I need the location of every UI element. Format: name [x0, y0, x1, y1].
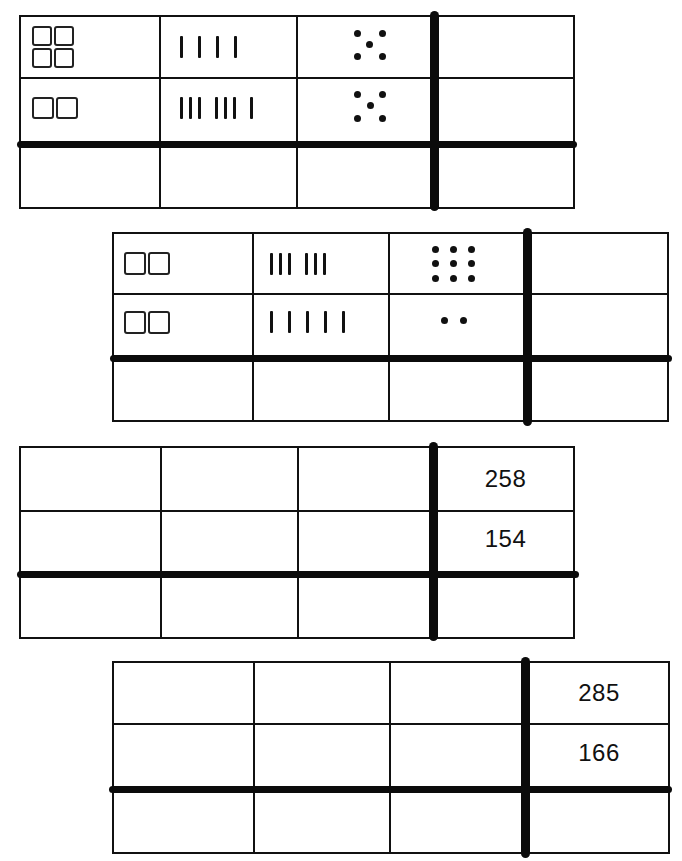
grid-line: [112, 852, 670, 854]
grid-line: [573, 446, 575, 639]
sum-line: [109, 786, 672, 793]
result-tens-cell[interactable]: [255, 793, 389, 852]
result-answer-cell[interactable]: [530, 793, 668, 852]
tens-cell[interactable]: [255, 725, 389, 786]
hundreds-cell: [114, 234, 252, 293]
result-tens-cell[interactable]: [162, 578, 297, 637]
unit-dot-icon: [432, 246, 476, 282]
ones-cell: [298, 79, 430, 141]
result-ones-cell[interactable]: [298, 148, 430, 207]
unit-dot-icon: [441, 317, 467, 325]
hundreds-cell[interactable]: [21, 448, 160, 510]
equals-divider: [523, 228, 532, 426]
tens-cell: [161, 79, 296, 141]
tally-mark-icon: [180, 97, 259, 119]
equals-divider: [430, 11, 439, 211]
ones-cell[interactable]: [299, 448, 429, 510]
result-answer-cell[interactable]: [532, 362, 667, 420]
addend-value: 166: [530, 739, 668, 767]
equals-divider: [521, 657, 530, 858]
result-ones-cell[interactable]: [299, 578, 429, 637]
addend-cell: 258: [438, 448, 573, 510]
hundreds-cell[interactable]: [21, 512, 160, 571]
grid-line: [668, 661, 670, 854]
tally-mark-icon: [270, 311, 351, 333]
tens-cell[interactable]: [162, 448, 297, 510]
result-hundreds-cell[interactable]: [114, 362, 252, 420]
hundreds-cell[interactable]: [114, 725, 253, 786]
result-ones-cell[interactable]: [390, 362, 523, 420]
hundreds-cell[interactable]: [114, 663, 253, 723]
result-hundreds-cell[interactable]: [114, 793, 253, 852]
sum-line: [110, 355, 672, 362]
unit-dot-icon: [354, 30, 384, 60]
tally-mark-icon: [270, 253, 332, 275]
ones-cell[interactable]: [391, 663, 521, 723]
hundreds-cell: [21, 79, 159, 141]
result-answer-cell[interactable]: [439, 148, 573, 207]
sum-line: [17, 571, 579, 578]
tens-cell: [254, 295, 388, 355]
grid-line: [573, 15, 575, 209]
sum-line: [17, 141, 577, 148]
answer-cell[interactable]: [439, 79, 573, 141]
hundreds-cell: [114, 295, 252, 355]
ones-cell[interactable]: [391, 725, 521, 786]
hundred-square-icon: [124, 252, 170, 275]
addend-value: 285: [530, 679, 668, 707]
answer-cell[interactable]: [532, 295, 667, 355]
ones-cell: [298, 17, 430, 77]
ones-cell: [390, 234, 523, 293]
hundred-square-icon: [124, 311, 170, 334]
tally-mark-icon: [180, 36, 243, 58]
grid-line: [112, 420, 668, 422]
tens-cell: [161, 17, 296, 77]
tens-cell[interactable]: [162, 512, 297, 571]
hundred-square-icon: [32, 26, 74, 68]
addend-cell: 285: [530, 663, 668, 723]
result-ones-cell[interactable]: [391, 793, 521, 852]
tens-cell: [254, 234, 388, 293]
result-tens-cell[interactable]: [161, 148, 296, 207]
hundreds-cell: [21, 17, 159, 77]
hundred-square-icon: [32, 97, 78, 119]
answer-cell[interactable]: [439, 17, 573, 77]
result-tens-cell[interactable]: [254, 362, 388, 420]
tens-cell[interactable]: [255, 663, 389, 723]
result-answer-cell[interactable]: [438, 578, 573, 637]
ones-cell: [390, 295, 523, 355]
equals-divider: [429, 442, 438, 641]
grid-line: [667, 232, 669, 422]
result-hundreds-cell[interactable]: [21, 148, 159, 207]
ones-cell[interactable]: [299, 512, 429, 571]
unit-dot-icon: [354, 91, 384, 121]
addend-value: 154: [438, 525, 573, 553]
answer-cell[interactable]: [532, 234, 667, 293]
result-hundreds-cell[interactable]: [21, 578, 160, 637]
addend-cell: 154: [438, 512, 573, 571]
addend-cell: 166: [530, 725, 668, 786]
addend-value: 258: [438, 465, 573, 493]
